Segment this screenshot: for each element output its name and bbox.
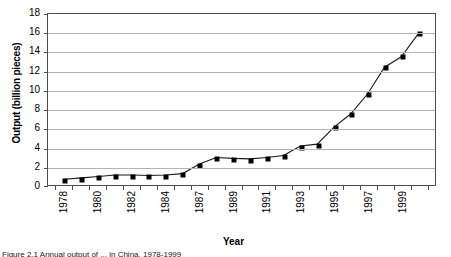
gridline (48, 110, 435, 111)
x-tick-mark (292, 186, 293, 190)
x-tick-mark (326, 186, 327, 190)
x-tick-mark (174, 186, 175, 190)
data-point-marker (248, 158, 253, 163)
data-point-marker (232, 158, 237, 163)
x-tick-mark (394, 186, 395, 190)
data-point-marker (401, 55, 406, 60)
x-tick-mark (343, 186, 344, 190)
x-tick-mark (242, 186, 243, 190)
series-line (48, 14, 435, 185)
data-point-marker (316, 143, 321, 148)
gridline (48, 91, 435, 92)
y-tick-label: 10 (18, 85, 40, 95)
data-point-marker (215, 157, 220, 162)
y-tick-label: 14 (18, 46, 40, 56)
data-point-marker (113, 174, 118, 179)
x-tick-mark (106, 186, 107, 190)
data-point-marker (367, 92, 372, 97)
x-tick-label: 1978 (59, 191, 69, 213)
data-point-marker (384, 65, 389, 70)
x-tick-label: 1987 (195, 191, 205, 213)
x-tick-label: 1980 (93, 191, 103, 213)
data-point-marker (62, 179, 67, 184)
y-tick-label: 16 (18, 27, 40, 37)
data-point-marker (79, 177, 84, 182)
x-tick-mark (123, 186, 124, 190)
x-tick-mark (157, 186, 158, 190)
y-tick-label: 12 (18, 66, 40, 76)
x-tick-mark (360, 186, 361, 190)
x-axis-tick-labels: 1978198019821984198719891991199319951997… (47, 191, 436, 235)
y-tick-mark (44, 14, 48, 15)
y-tick-mark (44, 52, 48, 53)
data-point-marker (181, 173, 186, 178)
y-axis-tick-labels: 024681012141618 (18, 0, 40, 200)
gridline (48, 52, 435, 53)
y-tick-label: 18 (18, 8, 40, 18)
y-tick-mark (44, 33, 48, 34)
x-tick-mark (258, 186, 259, 190)
y-tick-mark (44, 110, 48, 111)
data-point-marker (350, 112, 355, 117)
x-tick-label: 1997 (364, 191, 374, 213)
data-point-marker (96, 176, 101, 181)
x-tick-mark (309, 186, 310, 190)
y-tick-label: 6 (18, 123, 40, 133)
x-tick-label: 1999 (398, 191, 408, 213)
x-tick-label: 1989 (229, 191, 239, 213)
x-axis-title: Year (0, 236, 451, 247)
y-tick-mark (44, 91, 48, 92)
data-point-marker (130, 174, 135, 179)
data-point-marker (265, 157, 270, 162)
x-tick-label: 1995 (330, 191, 340, 213)
gridline (48, 168, 435, 169)
gridline (48, 72, 435, 73)
gridline (48, 33, 435, 34)
x-tick-mark (72, 186, 73, 190)
plot-area (47, 13, 436, 186)
x-tick-label: 1984 (161, 191, 171, 213)
y-tick-label: 8 (18, 104, 40, 114)
x-tick-label: 1991 (262, 191, 272, 213)
x-tick-mark (55, 186, 56, 190)
x-tick-mark (140, 186, 141, 190)
x-tick-mark (411, 186, 412, 190)
x-tick-label: 1982 (127, 191, 137, 213)
data-point-marker (147, 175, 152, 180)
y-tick-label: 0 (18, 181, 40, 191)
x-tick-mark (377, 186, 378, 190)
x-tick-mark (191, 186, 192, 190)
y-tick-mark (44, 149, 48, 150)
gridline (48, 129, 435, 130)
gridline (48, 149, 435, 150)
x-tick-mark (208, 186, 209, 190)
y-tick-mark (44, 129, 48, 130)
y-tick-mark (44, 72, 48, 73)
x-tick-label: 1993 (296, 191, 306, 213)
y-tick-label: 2 (18, 162, 40, 172)
figure-chart: Output (billion pieces) 024681012141618 … (0, 0, 451, 257)
data-point-marker (282, 155, 287, 160)
x-tick-mark (428, 186, 429, 190)
figure-caption: Figure 2.1 Annual output of ... in China… (2, 250, 451, 257)
x-tick-mark (225, 186, 226, 190)
x-axis-title-text: Year (223, 236, 244, 247)
data-point-marker (164, 174, 169, 179)
x-tick-mark (89, 186, 90, 190)
y-tick-label: 4 (18, 143, 40, 153)
y-tick-mark (44, 168, 48, 169)
x-tick-mark (275, 186, 276, 190)
